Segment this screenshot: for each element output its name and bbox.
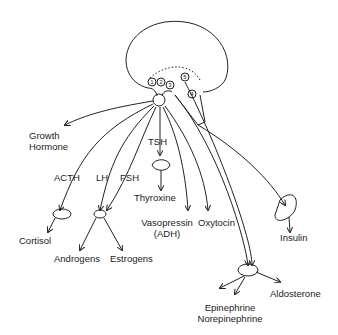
label-androgens: Androgens <box>54 253 100 264</box>
label-lh: LH <box>96 172 108 183</box>
endocrine-diagram: 1 2 3 5 4 <box>0 0 338 335</box>
nucleus-2: 2 <box>159 79 163 85</box>
label-growth-hormone: Growth Hormone <box>29 130 68 152</box>
brain-outline <box>126 21 228 92</box>
label-cortisol: Cortisol <box>19 235 51 246</box>
label-acth: ACTH <box>54 172 80 183</box>
label-tsh: TSH <box>148 136 167 147</box>
label-fsh: FSH <box>120 172 139 183</box>
nucleus-3: 3 <box>168 82 172 88</box>
label-estrogens: Estrogens <box>110 253 153 264</box>
label-catecholamines: Epinephrine Norepinephrine <box>195 302 265 324</box>
label-thyroxine: Thyroxine <box>134 192 176 203</box>
label-aldosterone: Aldosterone <box>270 288 321 299</box>
label-oxytocin: Oxytocin <box>198 217 235 228</box>
label-insulin: Insulin <box>280 232 307 243</box>
nucleus-5: 5 <box>183 74 187 80</box>
nucleus-1: 1 <box>150 79 154 85</box>
nucleus-4: 4 <box>190 91 194 97</box>
label-vasopressin: Vasopressin (ADH) <box>137 217 197 239</box>
